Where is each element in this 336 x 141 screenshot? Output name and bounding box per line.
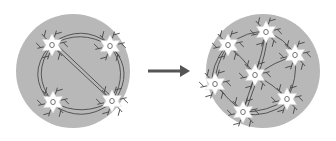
left-panel-sparse <box>16 14 130 128</box>
diagram-canvas <box>0 0 336 141</box>
left-circle <box>16 14 130 128</box>
right-panel-dense <box>199 14 320 128</box>
neural-growth-diagram <box>0 0 336 141</box>
arrow-icon <box>148 65 190 77</box>
